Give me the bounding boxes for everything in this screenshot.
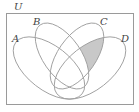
set-c-label: C: [100, 17, 108, 27]
set-b-label: B: [33, 17, 40, 27]
venn-diagram: [0, 0, 139, 112]
set-d-label: D: [121, 34, 129, 44]
shaded-region: [0, 0, 139, 112]
universe-label: U: [14, 2, 22, 12]
set-a-label: A: [12, 34, 19, 44]
